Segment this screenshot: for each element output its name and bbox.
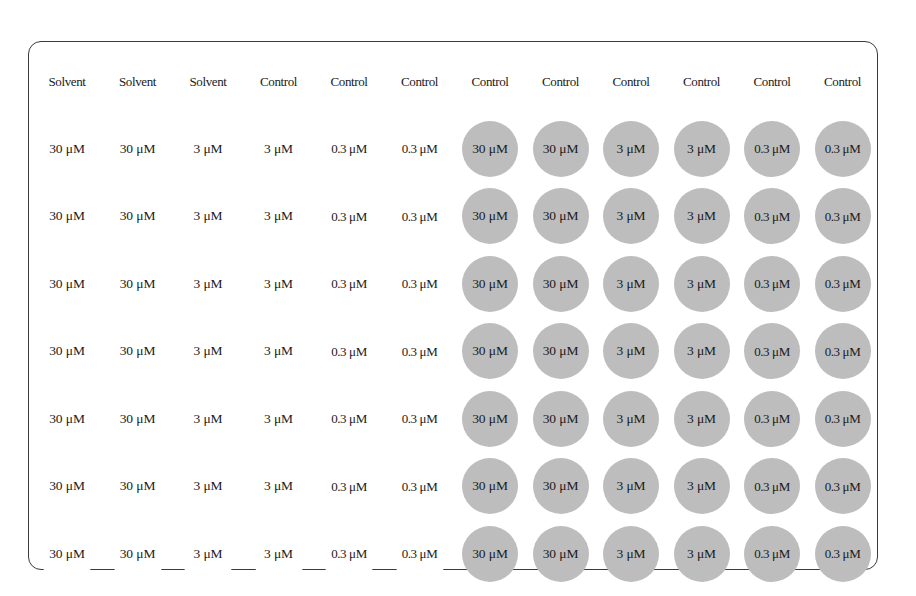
well-unshaded[interactable]: 0.3 μM <box>392 391 448 447</box>
well-unshaded[interactable]: Solvent <box>110 53 166 109</box>
well-shaded[interactable]: 30 μM <box>533 458 589 514</box>
well-unshaded[interactable]: Control <box>603 53 659 109</box>
well-shaded[interactable]: 30 μM <box>533 391 589 447</box>
well-shaded[interactable]: 3 μM <box>603 256 659 312</box>
well-unshaded[interactable]: Control <box>674 53 730 109</box>
well-shaded[interactable]: 30 μM <box>462 188 518 244</box>
well-unshaded[interactable]: 0.3 μM <box>392 458 448 514</box>
well-shaded[interactable]: 0.3 μM <box>744 121 800 177</box>
well-label: 3 μM <box>687 547 716 561</box>
well-shaded[interactable]: 0.3 μM <box>744 256 800 312</box>
well-unshaded[interactable]: 30 μM <box>110 323 166 379</box>
well-shaded[interactable]: 0.3 μM <box>815 458 871 514</box>
well-shaded[interactable]: 30 μM <box>533 256 589 312</box>
well-unshaded[interactable]: Solvent <box>39 53 95 109</box>
well-shaded[interactable]: 3 μM <box>603 323 659 379</box>
well-unshaded[interactable]: 3 μM <box>180 323 236 379</box>
well-unshaded[interactable]: 0.3 μM <box>321 188 377 244</box>
well-shaded[interactable]: 0.3 μM <box>744 526 800 582</box>
well-shaded[interactable]: 3 μM <box>603 391 659 447</box>
well-label: Control <box>824 75 861 88</box>
well-shaded[interactable]: 0.3 μM <box>815 188 871 244</box>
well-unshaded[interactable]: 30 μM <box>39 188 95 244</box>
well-shaded[interactable]: 0.3 μM <box>744 391 800 447</box>
well-unshaded[interactable]: Control <box>321 53 377 109</box>
well-shaded[interactable]: 30 μM <box>462 458 518 514</box>
well-unshaded[interactable]: Control <box>533 53 589 109</box>
well-unshaded[interactable]: 3 μM <box>251 121 307 177</box>
well-unshaded[interactable]: 3 μM <box>251 188 307 244</box>
well-unshaded[interactable]: Control <box>815 53 871 109</box>
well-shaded[interactable]: 3 μM <box>603 458 659 514</box>
well-unshaded[interactable]: 30 μM <box>39 458 95 514</box>
well-shaded[interactable]: 3 μM <box>603 526 659 582</box>
well-unshaded[interactable]: Control <box>392 53 448 109</box>
well-shaded[interactable]: 30 μM <box>462 256 518 312</box>
well-unshaded[interactable]: 3 μM <box>180 458 236 514</box>
well-unshaded[interactable]: 0.3 μM <box>392 323 448 379</box>
well-shaded[interactable]: 30 μM <box>462 526 518 582</box>
well-shaded[interactable]: 30 μM <box>533 526 589 582</box>
well-unshaded[interactable]: 30 μM <box>110 526 166 582</box>
well-shaded[interactable]: 3 μM <box>674 323 730 379</box>
well-unshaded[interactable]: 3 μM <box>180 256 236 312</box>
well-unshaded[interactable]: 3 μM <box>180 391 236 447</box>
well-shaded[interactable]: 30 μM <box>462 121 518 177</box>
well-shaded[interactable]: 30 μM <box>462 391 518 447</box>
well-shaded[interactable]: 3 μM <box>674 256 730 312</box>
well-unshaded[interactable]: 3 μM <box>180 121 236 177</box>
well-unshaded[interactable]: Control <box>462 53 518 109</box>
well-shaded[interactable]: 0.3 μM <box>744 323 800 379</box>
well-shaded[interactable]: 0.3 μM <box>815 526 871 582</box>
well-unshaded[interactable]: 30 μM <box>110 391 166 447</box>
well-unshaded[interactable]: 0.3 μM <box>392 121 448 177</box>
well-shaded[interactable]: 0.3 μM <box>815 256 871 312</box>
well-unshaded[interactable]: 3 μM <box>251 323 307 379</box>
well-unshaded[interactable]: Control <box>251 53 307 109</box>
well-unshaded[interactable]: 0.3 μM <box>392 188 448 244</box>
well-unshaded[interactable]: 30 μM <box>39 391 95 447</box>
well-shaded[interactable]: 3 μM <box>603 188 659 244</box>
well-unshaded[interactable]: Solvent <box>180 53 236 109</box>
well-unshaded[interactable]: 30 μM <box>110 458 166 514</box>
well-unshaded[interactable]: 0.3 μM <box>392 256 448 312</box>
well-shaded[interactable]: 30 μM <box>533 121 589 177</box>
well-unshaded[interactable]: 3 μM <box>251 256 307 312</box>
well-unshaded[interactable]: 0.3 μM <box>321 256 377 312</box>
well-unshaded[interactable]: 30 μM <box>110 121 166 177</box>
well-shaded[interactable]: 0.3 μM <box>815 323 871 379</box>
well-shaded[interactable]: 3 μM <box>674 458 730 514</box>
well-shaded[interactable]: 0.3 μM <box>815 391 871 447</box>
well-unshaded[interactable]: 30 μM <box>39 121 95 177</box>
well-unshaded[interactable]: 0.3 μM <box>321 391 377 447</box>
well-label: 0.3 μM <box>754 277 790 290</box>
well-shaded[interactable]: 0.3 μM <box>744 458 800 514</box>
well-shaded[interactable]: 30 μM <box>533 188 589 244</box>
well-unshaded[interactable]: 3 μM <box>251 391 307 447</box>
well-shaded[interactable]: 3 μM <box>674 526 730 582</box>
well-unshaded[interactable]: 3 μM <box>251 526 307 582</box>
well-unshaded[interactable]: 30 μM <box>39 323 95 379</box>
well-shaded[interactable]: 3 μM <box>603 121 659 177</box>
well-unshaded[interactable]: 30 μM <box>39 526 95 582</box>
well-unshaded[interactable]: 30 μM <box>110 188 166 244</box>
well-shaded[interactable]: 0.3 μM <box>744 188 800 244</box>
well-label: 0.3 μM <box>825 547 861 560</box>
well-unshaded[interactable]: 0.3 μM <box>321 458 377 514</box>
well-shaded[interactable]: 30 μM <box>533 323 589 379</box>
well-shaded[interactable]: 0.3 μM <box>815 121 871 177</box>
well-unshaded[interactable]: 30 μM <box>110 256 166 312</box>
well-shaded[interactable]: 30 μM <box>462 323 518 379</box>
well-unshaded[interactable]: 0.3 μM <box>321 323 377 379</box>
well-unshaded[interactable]: 0.3 μM <box>321 526 377 582</box>
well-unshaded[interactable]: 30 μM <box>39 256 95 312</box>
well-unshaded[interactable]: Control <box>744 53 800 109</box>
well-unshaded[interactable]: 0.3 μM <box>392 526 448 582</box>
well-shaded[interactable]: 3 μM <box>674 391 730 447</box>
well-unshaded[interactable]: 0.3 μM <box>321 121 377 177</box>
well-unshaded[interactable]: 3 μM <box>180 188 236 244</box>
well-shaded[interactable]: 3 μM <box>674 121 730 177</box>
well-shaded[interactable]: 3 μM <box>674 188 730 244</box>
well-unshaded[interactable]: 3 μM <box>180 526 236 582</box>
well-unshaded[interactable]: 3 μM <box>251 458 307 514</box>
